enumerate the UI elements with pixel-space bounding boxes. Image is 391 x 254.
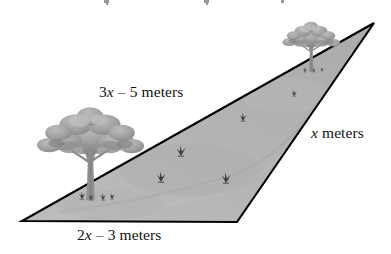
label-top-constant: 5 [130,83,138,100]
label-top-variable: x [107,83,114,100]
label-bottom-variable: x [85,226,92,243]
label-right-unit: meters [322,124,364,141]
label-top-side: 3x – 5 meters [99,84,183,100]
label-right-side: x meters [311,125,364,141]
label-bottom-unit: meters [120,226,162,243]
label-bottom-coefficient: 2 [77,226,85,243]
label-top-coefficient: 3 [99,83,107,100]
label-top-operator: – [118,83,126,100]
label-bottom-side: 2x – 3 meters [77,227,161,243]
label-bottom-constant: 3 [108,226,116,243]
label-bottom-operator: – [96,226,104,243]
label-right-variable: x [311,124,318,141]
label-top-unit: meters [142,83,184,100]
